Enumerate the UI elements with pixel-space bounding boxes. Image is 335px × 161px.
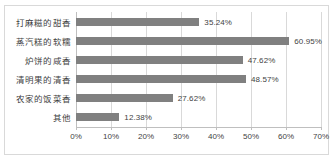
bar-row: 清明果的清香48.57% — [76, 70, 321, 89]
category-label: 其他 — [53, 111, 71, 123]
category-label: 炉饼的咸香 — [25, 54, 71, 66]
bar-row: 其他12.38% — [76, 108, 321, 127]
bar[interactable] — [76, 18, 199, 26]
bar-value-label: 12.38% — [124, 113, 152, 122]
bar-value-label: 47.62% — [248, 55, 276, 64]
bar[interactable] — [76, 94, 173, 102]
bar[interactable] — [76, 37, 289, 45]
x-tick-mark — [146, 127, 147, 130]
bar-value-label: 35.24% — [204, 17, 232, 26]
x-axis-line — [76, 127, 321, 128]
bar[interactable] — [76, 75, 246, 83]
bar[interactable] — [76, 113, 119, 121]
x-tick-mark — [286, 127, 287, 130]
category-label: 农家的饭菜香 — [16, 92, 71, 104]
x-tick-label: 0% — [70, 132, 82, 141]
bar-row: 蒸汽糕的软糯60.95% — [76, 31, 321, 50]
x-tick-label: 20% — [138, 132, 154, 141]
category-label: 蒸汽糕的软糯 — [16, 35, 71, 47]
x-tick-label: 10% — [103, 132, 119, 141]
bar-row: 炉饼的咸香47.62% — [76, 50, 321, 69]
x-tick-label: 50% — [243, 132, 259, 141]
bar-row: 农家的饭菜香27.62% — [76, 89, 321, 108]
category-label: 清明果的清香 — [16, 73, 71, 85]
category-label: 打麻糍的甜香 — [16, 16, 71, 28]
gridline-70 — [321, 12, 322, 127]
x-tick-label: 60% — [278, 132, 294, 141]
x-tick-mark — [76, 127, 77, 130]
x-tick-mark — [321, 127, 322, 130]
x-tick-mark — [251, 127, 252, 130]
bar-value-label: 48.57% — [251, 75, 279, 84]
bar-row: 打麻糍的甜香35.24% — [76, 12, 321, 31]
bar-value-label: 60.95% — [294, 36, 322, 45]
x-tick-label: 30% — [173, 132, 189, 141]
x-tick-label: 70% — [313, 132, 329, 141]
bar-value-label: 27.62% — [178, 94, 206, 103]
x-tick-mark — [111, 127, 112, 130]
chart-frame: 打麻糍的甜香35.24%蒸汽糕的软糯60.95%炉饼的咸香47.62%清明果的清… — [4, 5, 329, 155]
plot-area: 打麻糍的甜香35.24%蒸汽糕的软糯60.95%炉饼的咸香47.62%清明果的清… — [76, 12, 321, 127]
x-tick-mark — [181, 127, 182, 130]
bar[interactable] — [76, 56, 243, 64]
x-tick-mark — [216, 127, 217, 130]
x-tick-label: 40% — [208, 132, 224, 141]
